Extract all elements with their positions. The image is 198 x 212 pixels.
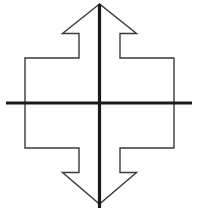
arrow-cross-diagram xyxy=(0,0,198,212)
figure-canvas xyxy=(0,0,198,212)
